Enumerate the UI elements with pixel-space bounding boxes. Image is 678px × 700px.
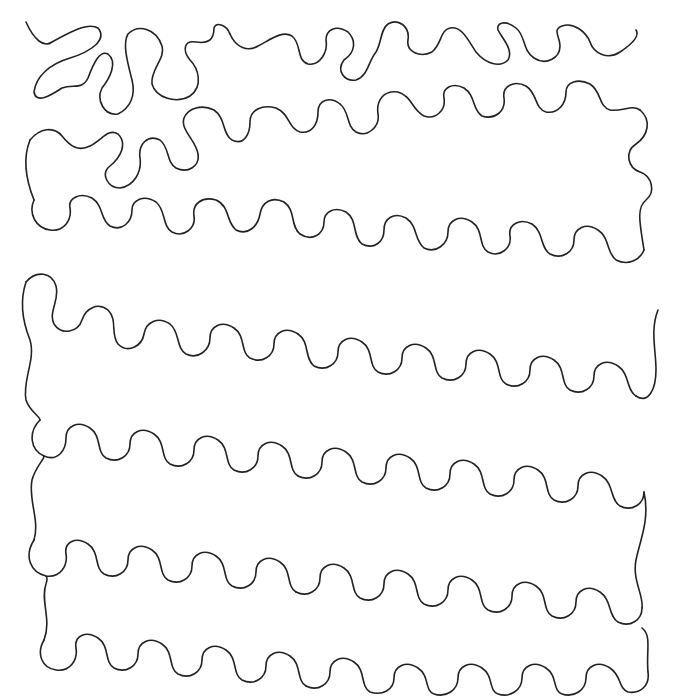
stipple-pattern xyxy=(0,0,678,700)
meander-line xyxy=(23,22,658,695)
